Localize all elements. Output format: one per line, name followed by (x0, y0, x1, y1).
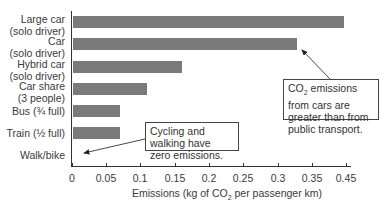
annotation-text: CO (288, 82, 304, 94)
arrow-to-walk-bike (84, 139, 145, 153)
annotation-cars-vs-public-transport: CO2 emissions from cars are greater than… (283, 79, 379, 120)
emissions-bar-chart: Large car (solo driver) Car (solo driver… (0, 0, 391, 212)
annotation-zero-emissions: Cycling and walking have zero emissions. (145, 122, 239, 151)
arrow-to-car-bar (302, 50, 330, 79)
